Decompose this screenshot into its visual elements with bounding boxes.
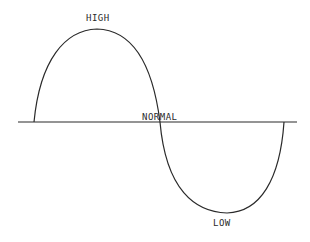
diagram-canvas: HIGH NORMAL LOW [0, 0, 310, 242]
wave-crest [34, 29, 160, 122]
normal-label: NORMAL [142, 112, 178, 122]
low-label: LOW [213, 218, 231, 228]
high-label: HIGH [86, 13, 110, 23]
wave-trough [160, 122, 284, 213]
